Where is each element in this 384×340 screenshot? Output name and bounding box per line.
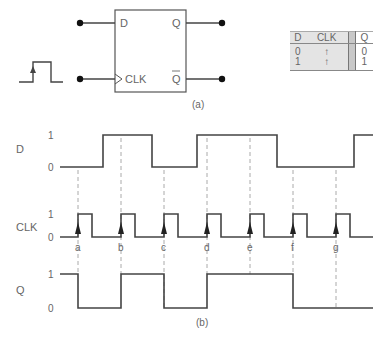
arrow-up-icon (204, 222, 210, 234)
clock-pulse-symbol (19, 62, 63, 82)
cell-q: 1 (355, 57, 373, 71)
edge-label-a: a (75, 242, 81, 253)
edge-label-c: c (161, 242, 166, 253)
cell-q: 0 (355, 44, 373, 58)
column-separator (348, 57, 355, 71)
cell-clk: ↑ (306, 57, 349, 71)
pin-label-q: Q (172, 17, 181, 29)
edge-label-b: b (118, 242, 124, 253)
level-high-d: 1 (48, 130, 54, 141)
signal-name-d: D (16, 143, 24, 155)
input-clk-wire (77, 76, 115, 82)
arrow-up-icon (333, 222, 339, 234)
header-clk: CLK (306, 32, 349, 44)
column-separator (348, 44, 355, 58)
clock-edge-labels: a b c d e f g (75, 242, 339, 253)
edge-label-d: d (204, 242, 210, 253)
clk-waveform (60, 214, 373, 237)
arrow-up-icon (118, 222, 124, 234)
terminal-dot-icon (219, 20, 225, 26)
header-q: Q (355, 32, 373, 44)
pin-label-qbar: Q (172, 73, 181, 85)
arrow-up-icon (161, 222, 167, 234)
arrow-up-icon (290, 222, 296, 234)
table-row: 1 ↑ 1 (290, 57, 373, 71)
edge-label-f: f (291, 242, 294, 253)
truth-table: D CLK Q 0 ↑ 0 1 ↑ 1 (290, 31, 373, 71)
arrow-up-icon (247, 222, 253, 234)
output-q-wire (186, 20, 225, 26)
level-low-q: 0 (48, 303, 54, 314)
header-d: D (290, 32, 306, 44)
edge-label-e: e (247, 242, 253, 253)
q-waveform (60, 274, 373, 308)
edge-label-g: g (333, 242, 339, 253)
cell-d: 0 (290, 44, 306, 58)
cell-clk: ↑ (306, 44, 349, 58)
signal-name-q: Q (16, 284, 25, 296)
cell-d: 1 (290, 57, 306, 71)
output-qbar-wire (186, 76, 225, 82)
level-high-q: 1 (48, 269, 54, 280)
terminal-dot-icon (77, 76, 83, 82)
terminal-dot-icon (219, 76, 225, 82)
input-d-wire (77, 20, 115, 26)
clk-rising-edge-arrows (75, 222, 339, 234)
level-low-clk: 0 (48, 232, 54, 243)
arrow-up-icon (75, 222, 81, 234)
pin-label-clk: CLK (125, 73, 147, 85)
pin-label-d: D (120, 17, 128, 29)
d-waveform (60, 135, 373, 167)
signal-name-clk: CLK (16, 221, 38, 233)
table-row: 0 ↑ 0 (290, 44, 373, 58)
terminal-dot-icon (77, 20, 83, 26)
level-low-d: 0 (48, 162, 54, 173)
caption-a: (a) (192, 99, 204, 110)
column-separator (348, 32, 355, 44)
caption-b: (b) (196, 317, 208, 328)
rising-edge-arrow-icon (30, 66, 36, 73)
level-high-clk: 1 (48, 209, 54, 220)
